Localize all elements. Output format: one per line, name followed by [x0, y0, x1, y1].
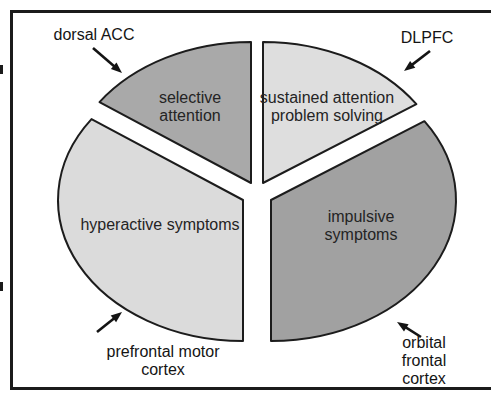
- dorsal-acc-arrow-shaft: [93, 48, 116, 68]
- scan-artifact: [0, 282, 3, 291]
- callout-label-dlpfc: DLPFC: [401, 29, 453, 47]
- callout-label-orbital-frontal-cortex: orbital frontal cortex: [391, 334, 458, 388]
- callout-label-dorsal-acc: dorsal ACC: [54, 26, 135, 44]
- prefrontal-motor-cortex-arrow-shaft: [97, 317, 116, 332]
- orbital-frontal-cortex-arrowhead-icon: [397, 322, 409, 332]
- wedge-label-hyperactive-symptoms: hyperactive symptoms: [80, 216, 239, 234]
- wedge-label-impulsive-symptoms: impulsive symptoms: [296, 208, 426, 244]
- scan-artifact: [0, 65, 3, 74]
- figure-canvas: selective attention sustained attention …: [0, 0, 491, 399]
- wedge-label-selective-attention: selective attention: [159, 89, 221, 125]
- dlpfc-arrow-shaft: [410, 51, 430, 66]
- callout-label-prefrontal-motor-cortex: prefrontal motor cortex: [107, 343, 220, 379]
- wedge-label-sustained-attention-problem-solving: sustained attention problem solving: [260, 89, 394, 125]
